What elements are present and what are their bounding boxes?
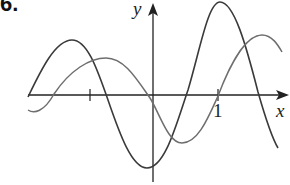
curve-light xyxy=(28,35,282,143)
x-axis-label: x xyxy=(276,100,284,122)
graph-canvas xyxy=(0,0,290,185)
graph-figure: 6. y x 1 xyxy=(0,0,290,185)
y-axis-label: y xyxy=(133,0,141,20)
x-tick-label-1: 1 xyxy=(213,100,223,122)
